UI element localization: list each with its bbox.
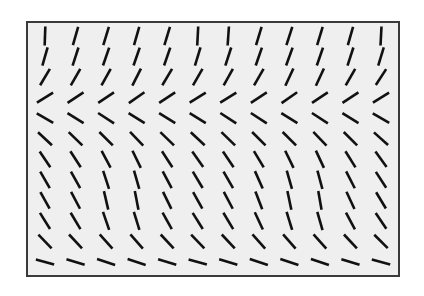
- orientation-segment: [345, 151, 355, 167]
- orientation-segment: [130, 234, 142, 248]
- orientation-segment: [342, 92, 358, 102]
- orientation-segment: [158, 259, 176, 265]
- orientation-segment: [312, 92, 328, 103]
- orientation-segment: [195, 47, 201, 65]
- orientation-segment: [68, 92, 84, 102]
- orientation-segment: [134, 212, 140, 230]
- orientation-segment: [42, 47, 47, 65]
- orientation-segment: [69, 235, 82, 249]
- orientation-segment: [69, 132, 83, 145]
- orientation-segment: [346, 69, 356, 85]
- orientation-segment: [348, 27, 353, 45]
- orientation-segment: [256, 27, 262, 45]
- orientation-segment: [317, 48, 323, 66]
- orientation-segment: [98, 113, 114, 123]
- orientation-field-panel: [26, 21, 400, 277]
- orientation-segment: [100, 234, 113, 248]
- orientation-segment: [162, 151, 172, 167]
- orientation-segment: [224, 192, 233, 209]
- orientation-segment: [159, 92, 175, 102]
- orientation-segment: [38, 132, 52, 145]
- orientation-segment: [129, 113, 145, 123]
- orientation-segment: [286, 48, 293, 66]
- orientation-segment: [374, 132, 388, 145]
- orientation-segment: [348, 48, 354, 66]
- orientation-segment: [317, 27, 323, 45]
- orientation-segment: [160, 132, 174, 145]
- orientation-segment: [73, 27, 78, 45]
- orientation-segment: [197, 27, 198, 46]
- orientation-segment: [45, 27, 46, 46]
- orientation-segment: [251, 92, 267, 102]
- orientation-segment: [130, 132, 143, 146]
- orientation-segment: [223, 151, 234, 167]
- orientation-segment: [129, 92, 145, 103]
- orientation-segment: [221, 132, 235, 145]
- figure-root: [0, 0, 424, 296]
- orientation-segment: [134, 27, 139, 45]
- orientation-segment: [372, 260, 390, 265]
- orientation-segment: [287, 191, 291, 210]
- orientation-segment: [71, 213, 81, 229]
- orientation-segment: [317, 212, 322, 230]
- orientation-segment: [220, 93, 236, 103]
- orientation-segment: [316, 68, 324, 85]
- orientation-segment: [341, 259, 359, 265]
- orientation-segment: [252, 132, 265, 145]
- orientation-segment: [344, 132, 357, 145]
- orientation-segment: [251, 113, 267, 123]
- orientation-segment: [38, 235, 51, 249]
- orientation-segment: [283, 234, 295, 248]
- orientation-segment: [287, 171, 292, 189]
- orientation-segment: [97, 259, 115, 265]
- orientation-segment: [254, 151, 264, 167]
- orientation-segment: [223, 213, 233, 229]
- orientation-segment: [159, 113, 175, 123]
- orientation-segment: [228, 27, 229, 46]
- orientation-segment: [40, 151, 51, 167]
- orientation-segment: [163, 213, 172, 230]
- orientation-segment: [40, 69, 50, 85]
- orientation-segment: [255, 212, 263, 229]
- orientation-segment: [282, 92, 298, 103]
- orientation-segment: [135, 191, 139, 210]
- orientation-segment: [103, 48, 109, 66]
- orientation-segment: [103, 171, 109, 189]
- orientation-segment: [346, 171, 355, 188]
- orientation-segment: [376, 192, 386, 208]
- orientation-segment: [224, 172, 234, 188]
- orientation-segment: [190, 113, 206, 123]
- orientation-segment: [316, 151, 324, 168]
- orientation-segment: [189, 259, 207, 264]
- orientation-segment: [375, 152, 386, 167]
- orientation-segment: [346, 213, 355, 230]
- orientation-segment: [193, 192, 202, 209]
- orientation-segment: [36, 259, 54, 264]
- orientation-segment: [70, 151, 80, 167]
- orientation-segment: [134, 48, 140, 66]
- orientation-segment: [66, 259, 84, 265]
- orientation-segment: [222, 235, 235, 249]
- orientation-segment: [344, 235, 357, 249]
- orientation-segment: [252, 234, 265, 248]
- orientation-segment: [191, 132, 205, 145]
- orientation-segment: [311, 259, 329, 265]
- orientation-segment: [255, 171, 263, 188]
- orientation-segment: [161, 235, 174, 249]
- orientation-segment: [285, 151, 293, 168]
- orientation-segment: [286, 27, 292, 45]
- orientation-segment: [71, 172, 80, 189]
- orientation-segment: [281, 113, 297, 123]
- orientation-segment: [128, 259, 146, 265]
- orientation-segment: [193, 69, 203, 85]
- orientation-segment: [99, 132, 112, 145]
- orientation-segment: [40, 213, 50, 229]
- orientation-segment: [314, 234, 327, 248]
- orientation-segment: [280, 259, 298, 265]
- orientation-segment: [376, 172, 386, 188]
- orientation-segment: [163, 192, 171, 209]
- orientation-segment: [73, 48, 79, 66]
- orientation-segment: [220, 113, 236, 123]
- orientation-segment: [132, 69, 141, 86]
- orientation-segment: [40, 172, 50, 188]
